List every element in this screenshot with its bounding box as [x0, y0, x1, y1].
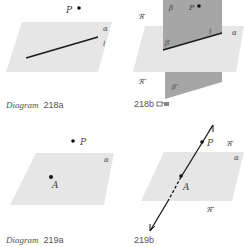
diagram-218a: P α l Diagram 218a: [5, 5, 112, 110]
point-p-label: P: [65, 5, 73, 15]
plane-alpha-label: α: [104, 156, 109, 164]
plane-alpha-label: α: [103, 25, 108, 33]
plane-alpha: [10, 153, 114, 205]
region-r-double-prime-label: ℜ″: [206, 206, 215, 214]
line-l-label: l: [209, 28, 211, 36]
caption-218a: Diagram 218a: [5, 100, 63, 110]
arrow-up-icon: [209, 125, 213, 132]
beta-prime-label: β′: [164, 39, 171, 47]
point-p: [200, 140, 204, 144]
point-p-label: P: [188, 3, 195, 12]
plane-alpha-label: α: [232, 29, 237, 37]
region-r-prime-label: ℜ′: [226, 140, 234, 148]
diagram-219b: P A α ℜ′ ℜ″ 219b: [134, 125, 244, 245]
diagram-218b: P β β′ l α ℜ′ ℜ″ β″ 218b: [133, 0, 244, 109]
point-p-label: P: [79, 137, 87, 147]
point-a-label: A: [182, 182, 190, 192]
point-a: [49, 175, 53, 179]
diagram-219a: P A α Diagram 219a: [5, 137, 114, 245]
point-a-label: A: [51, 180, 59, 190]
region-r-prime-label: ℜ′: [138, 13, 146, 21]
plane-alpha-label: α: [234, 154, 239, 162]
point-p: [77, 6, 81, 10]
caption-218b: 218b: [134, 99, 154, 109]
caption-219b: 219b: [134, 235, 154, 245]
line-lower: [150, 201, 168, 231]
beta-label: β: [168, 4, 173, 12]
beta-double-prime-label: β″: [171, 83, 179, 91]
point-p-label: P: [206, 138, 214, 148]
region-r-double-prime-label: ℜ″: [138, 78, 147, 86]
plane-alpha: [6, 22, 112, 72]
line-l-label: l: [103, 40, 105, 48]
caption-219a: Diagram 219a: [5, 235, 63, 245]
point-p: [71, 139, 75, 143]
3d-glasses-icon: [157, 102, 169, 106]
point-p: [197, 4, 201, 8]
point-a: [179, 174, 183, 178]
